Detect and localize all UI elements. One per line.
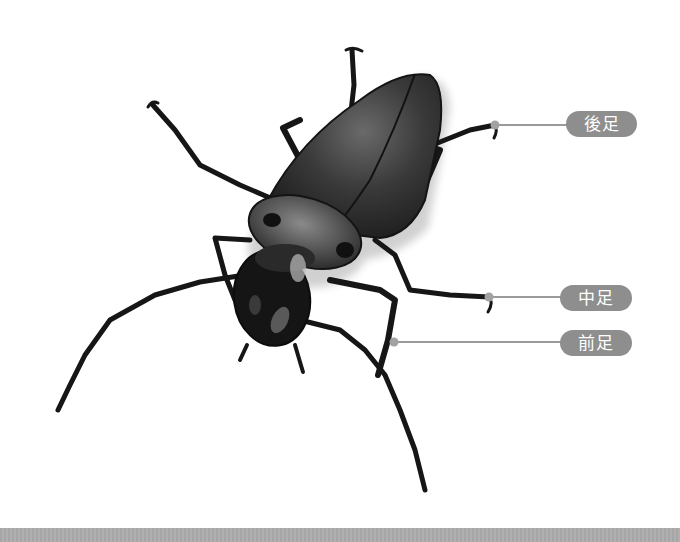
label-hind-leg: 後足 [566, 111, 637, 137]
leader-line-middle-leg [489, 296, 564, 298]
beetle-illustration [0, 0, 680, 528]
label-front-leg: 前足 [560, 330, 632, 356]
beetle-anatomy-figure: 後足 中足 前足 [0, 0, 680, 528]
leader-line-front-leg [394, 341, 564, 343]
leader-line-hind-leg [495, 124, 570, 126]
leader-dot-hind-leg [491, 121, 500, 130]
label-middle-leg: 中足 [560, 285, 632, 311]
leader-dot-middle-leg [485, 293, 494, 302]
bottom-band [0, 528, 680, 542]
leader-dot-front-leg [390, 338, 399, 347]
